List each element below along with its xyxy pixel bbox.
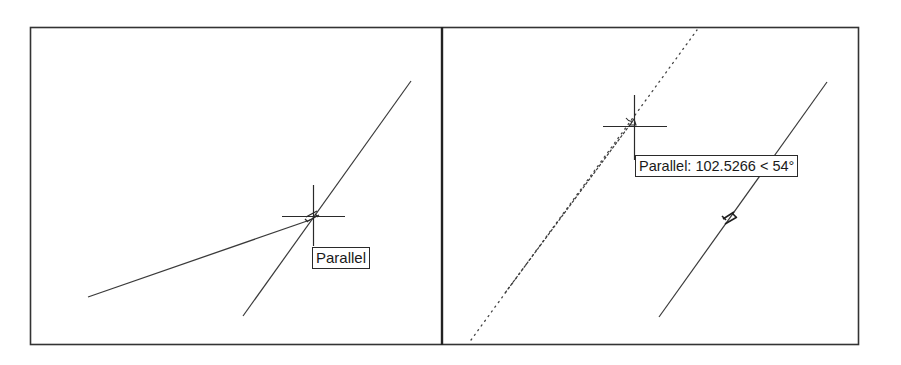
drawn-line-segment[interactable] <box>88 220 310 297</box>
tracking-path-dotted <box>471 30 697 340</box>
drawn-line-rubberband <box>505 122 632 293</box>
reference-line[interactable] <box>243 81 411 316</box>
drawing-canvas[interactable] <box>0 0 901 365</box>
viewport-frame <box>31 28 859 345</box>
crosshair-icon <box>282 185 345 246</box>
right-viewport[interactable] <box>471 30 827 340</box>
reference-line[interactable] <box>659 82 827 317</box>
left-viewport[interactable] <box>88 81 411 316</box>
parallel-tracking-tooltip: Parallel: 102.5266 < 54° <box>635 155 798 177</box>
parallel-tooltip: Parallel <box>312 247 370 269</box>
crosshair-icon <box>603 95 667 160</box>
